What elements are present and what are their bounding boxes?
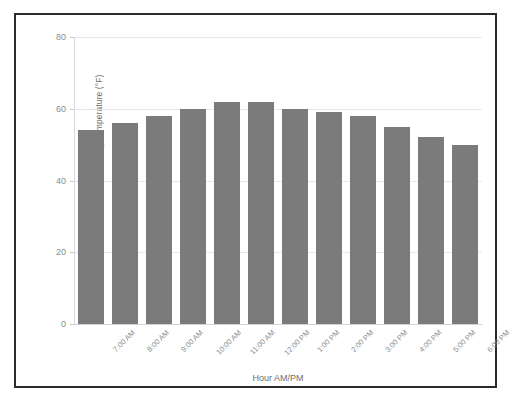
y-tick-label: 60 xyxy=(56,104,66,114)
bar[interactable] xyxy=(384,127,410,324)
x-tick-label: 8:00 AM xyxy=(145,328,171,354)
x-tick-label: 3:00 PM xyxy=(383,328,409,354)
bar[interactable] xyxy=(418,137,444,324)
x-tick-label: 9:00 AM xyxy=(179,328,205,354)
x-tick-label: 7:00 AM xyxy=(111,328,137,354)
y-tick-mark-0 xyxy=(70,324,74,325)
x-tick-label: 5:00 PM xyxy=(451,328,477,354)
bar[interactable] xyxy=(180,109,206,324)
x-tick-label: 10:00 AM xyxy=(214,328,243,357)
x-tick-label: 1:00 PM xyxy=(315,328,341,354)
y-tick-label: 20 xyxy=(56,247,66,257)
bar[interactable] xyxy=(350,116,376,324)
bar[interactable] xyxy=(78,130,104,324)
bar[interactable] xyxy=(452,145,478,324)
x-tick-label: 11:00 AM xyxy=(248,328,276,356)
bar[interactable] xyxy=(112,123,138,324)
bar[interactable] xyxy=(316,112,342,324)
gridline-y-0 xyxy=(74,324,482,325)
bar[interactable] xyxy=(146,116,172,324)
y-tick-label: 0 xyxy=(61,319,66,329)
bars-layer xyxy=(74,37,482,324)
bar[interactable] xyxy=(282,109,308,324)
x-tick-label: 4:00 PM xyxy=(417,328,443,354)
x-tick-label: 2:00 PM xyxy=(349,328,375,354)
chart-frame: Avg Temperature (°F) 020406080 7:00 AM8:… xyxy=(14,13,497,388)
x-tick-label: 12:00 PM xyxy=(282,328,311,357)
bar[interactable] xyxy=(248,102,274,324)
x-axis-tick-labels: 7:00 AM8:00 AM9:00 AM10:00 AM11:00 AM12:… xyxy=(74,326,482,376)
bar[interactable] xyxy=(214,102,240,324)
x-tick-label: 6:00 PM xyxy=(485,328,511,354)
y-tick-label: 40 xyxy=(56,176,66,186)
x-axis-title: Hour AM/PM xyxy=(74,373,482,383)
y-tick-label: 80 xyxy=(56,32,66,42)
plot-area: 020406080 xyxy=(74,37,482,324)
